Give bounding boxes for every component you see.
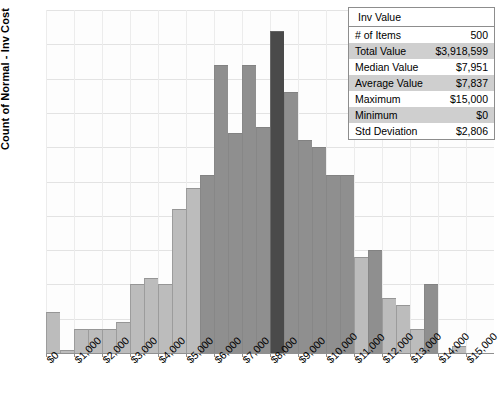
stats-row: Total Value$3,918,599 — [349, 43, 494, 59]
stats-row: # of Items500 — [349, 27, 494, 43]
stats-row: Minimum$0 — [349, 107, 494, 123]
histogram-bar — [228, 133, 242, 353]
histogram-bar — [312, 147, 326, 353]
histogram-bar — [270, 31, 284, 353]
histogram-bar — [46, 312, 60, 353]
y-axis-title: Count of Normal - Inv Cost — [0, 0, 11, 150]
histogram-bar — [326, 175, 340, 353]
histogram-bar — [214, 65, 228, 353]
stats-row: Average Value$7,837 — [349, 75, 494, 91]
stats-row-label: # of Items — [355, 29, 401, 41]
stats-row-label: Total Value — [355, 45, 406, 57]
stats-row-value: $7,837 — [456, 77, 488, 89]
histogram-bar — [340, 175, 354, 353]
stats-row-label: Minimum — [355, 109, 398, 121]
histogram-bar — [200, 175, 214, 353]
stats-row-value: 500 — [470, 29, 488, 41]
stats-row-value: $3,918,599 — [435, 45, 488, 57]
stats-row-label: Median Value — [355, 61, 418, 73]
stats-row: Median Value$7,951 — [349, 59, 494, 75]
stats-row-label: Std Deviation — [355, 125, 417, 137]
stats-row-value: $2,806 — [456, 125, 488, 137]
histogram-bar — [172, 209, 186, 353]
stats-row-label: Maximum — [355, 93, 401, 105]
stats-row: Std Deviation$2,806 — [349, 123, 494, 139]
stats-table-rows: # of Items500Total Value$3,918,599Median… — [349, 27, 494, 139]
histogram-bar — [186, 188, 200, 353]
histogram-bar — [242, 65, 256, 353]
histogram-bar — [298, 140, 312, 353]
stats-row-value: $15,000 — [450, 93, 488, 105]
stats-table-title: Inv Value — [349, 8, 494, 27]
stats-table: Inv Value # of Items500Total Value$3,918… — [348, 7, 495, 140]
histogram-bar — [284, 92, 298, 353]
histogram-bar — [256, 127, 270, 353]
stats-row: Maximum$15,000 — [349, 91, 494, 107]
stats-row-label: Average Value — [355, 77, 423, 89]
stats-row-value: $7,951 — [456, 61, 488, 73]
stats-row-value: $0 — [476, 109, 488, 121]
histogram-chart: Count of Normal - Inv Cost 0510152025303… — [0, 0, 499, 401]
